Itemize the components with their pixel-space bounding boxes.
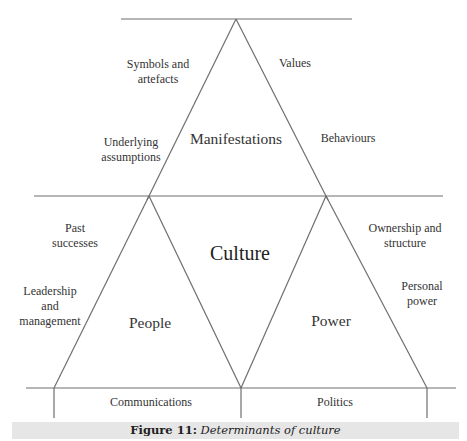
people-label: People [115, 314, 185, 332]
symbols-and-artefacts-label: Symbols and artefacts [113, 57, 203, 87]
behaviours-label: Behaviours [308, 131, 388, 146]
figure-caption: Figure 11: Determinants of culture [12, 422, 459, 439]
left-triangle-right-edge [149, 196, 241, 388]
top-triangle-right-edge [236, 19, 328, 200]
right-triangle-left-edge [241, 196, 326, 388]
personal-power-label: Personal power [392, 279, 452, 309]
figure-caption-number: Figure 11: [130, 423, 197, 437]
determinants-of-culture-diagram: Manifestations Culture People Power Symb… [0, 0, 467, 441]
past-successes-label: Past successes [40, 221, 110, 251]
power-label: Power [296, 312, 366, 330]
values-label: Values [270, 56, 320, 71]
politics-label: Politics [300, 395, 370, 410]
manifestations-label: Manifestations [186, 130, 286, 148]
ownership-and-structure-label: Ownership and structure [360, 221, 450, 251]
figure-caption-title: Determinants of culture [201, 423, 341, 437]
top-triangle-left-edge [147, 19, 236, 200]
leadership-and-management-label: Leadership and management [6, 284, 94, 329]
culture-label: Culture [200, 242, 280, 264]
communications-label: Communications [97, 395, 205, 410]
underlying-assumptions-label: Underlying assumptions [91, 135, 171, 165]
